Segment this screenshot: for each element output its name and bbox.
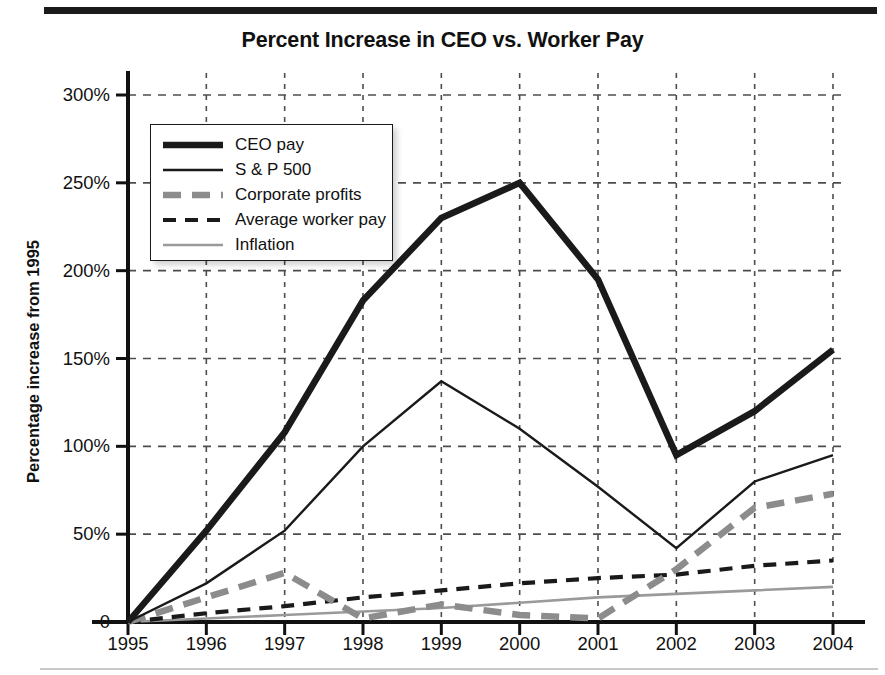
x-axis-tick-label: 1997 (240, 633, 330, 655)
x-axis-tick-label: 1995 (83, 633, 173, 655)
x-axis-tick-label: 1998 (318, 633, 408, 655)
legend-item-label: Inflation (235, 236, 295, 253)
y-axis-tick-label: 300% (18, 84, 110, 106)
legend-swatch-icon (162, 238, 224, 252)
y-axis-tick-label: 250% (18, 172, 110, 194)
series-line-inflation (128, 587, 833, 622)
legend-item-label: Average worker pay (235, 211, 386, 228)
legend-swatch-icon (162, 163, 224, 177)
legend-item-label: Corporate profits (235, 186, 362, 203)
legend-item-label: S & P 500 (235, 161, 311, 178)
legend-swatch-icon (162, 188, 224, 202)
x-axis-tick-label: 1996 (161, 633, 251, 655)
chart-figure: Percent Increase in CEO vs. Worker Pay P… (0, 0, 885, 675)
x-axis-tick-label: 2004 (788, 633, 878, 655)
y-axis-tick-label: 150% (18, 348, 110, 370)
series-line-corporate-profits (128, 494, 833, 622)
legend-item-label: CEO pay (235, 136, 304, 153)
y-axis-tick-label: 0 (18, 611, 110, 633)
legend-swatch-icon (162, 213, 224, 227)
legend-item: Corporate profits (151, 182, 392, 207)
legend-item: Average worker pay (151, 207, 392, 232)
y-axis-tick-label: 200% (18, 260, 110, 282)
x-axis-tick-label: 2001 (553, 633, 643, 655)
plot-area (0, 0, 885, 675)
y-axis-tick-label: 100% (18, 435, 110, 457)
chart-legend: CEO payS & P 500Corporate profitsAverage… (150, 124, 393, 261)
legend-item: CEO pay (151, 132, 392, 157)
x-axis-tick-label: 2002 (631, 633, 721, 655)
y-axis-tick-label: 50% (18, 523, 110, 545)
legend-item: S & P 500 (151, 157, 392, 182)
legend-swatch-icon (162, 138, 224, 152)
x-axis-tick-label: 2000 (475, 633, 565, 655)
x-axis-tick-label: 1999 (396, 633, 486, 655)
x-axis-tick-label: 2003 (710, 633, 800, 655)
legend-item: Inflation (151, 232, 392, 257)
